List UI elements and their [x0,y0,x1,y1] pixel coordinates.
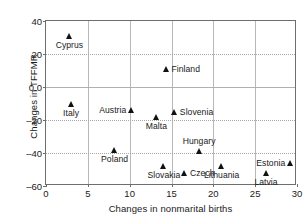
point-label-estonia: Estonia [256,157,285,167]
y-tick-label: ‒40 [26,148,42,159]
triangle-marker-icon [218,163,224,169]
y-tick-mark [43,87,46,88]
gridline-x-10 [130,21,131,184]
x-tick-mark [46,184,47,187]
x-tick-label: 5 [85,188,90,199]
point-label-latvia: Latvia [254,177,277,187]
y-tick-label: 0.0 [29,82,42,93]
x-tick-mark [297,184,298,187]
triangle-marker-icon [287,160,293,166]
y-tick-mark [43,54,46,55]
scatter-chart: Changes in TFFMR 40200.0‒20‒40‒60 051015… [0,0,305,222]
point-label-slovakia: Slovakia [148,170,181,180]
y-tick-mark [43,120,46,121]
y-tick-label: ‒20 [26,115,42,126]
y-tick-label: 40 [31,16,42,27]
point-label-austria: Austria [99,105,126,115]
triangle-marker-icon [160,163,166,169]
x-tick-mark [88,184,89,187]
plot-area: 40200.0‒20‒40‒60 051015202530 CyprusItal… [45,20,296,185]
gridline-y-‒40 [46,153,295,154]
x-tick-label: 0 [43,188,48,199]
gridline-x-20 [213,21,214,184]
point-label-slovenia: Slovenia [180,106,213,116]
y-tick-mark [43,21,46,22]
x-tick-label: 10 [124,188,135,199]
x-axis-title: Changes in nonmarital births [45,203,296,214]
x-tick-label: 20 [208,188,219,199]
gridline-y-20 [46,54,295,55]
gridline-y-0.0 [46,87,295,88]
x-tick-label: 15 [166,188,177,199]
triangle-marker-icon [128,107,134,113]
gridline-y-‒20 [46,120,295,121]
x-tick-label: 30 [292,188,303,199]
point-label-hungary: Hungary [183,136,216,146]
point-label-italy: Italy [63,108,79,118]
triangle-marker-icon [163,66,169,72]
point-label-finland: Finland [171,63,200,73]
x-tick-mark [130,184,131,187]
point-label-lithuania: Lithuania [204,170,239,180]
triangle-marker-icon [263,170,269,176]
triangle-marker-icon [171,109,177,115]
point-label-cyprus: Cyprus [56,40,84,50]
x-tick-label: 25 [250,188,261,199]
triangle-marker-icon [111,147,117,153]
triangle-marker-icon [68,101,74,107]
x-tick-mark [213,184,214,187]
y-tick-mark [43,153,46,154]
gridline-x-15 [172,21,173,184]
x-tick-mark [172,184,173,187]
triangle-marker-icon [66,33,72,39]
point-label-malta: Malta [146,121,167,131]
triangle-marker-icon [196,148,202,154]
y-tick-label: 20 [31,49,42,60]
point-label-poland: Poland [101,154,128,164]
triangle-marker-icon [153,114,159,120]
y-tick-label: ‒60 [26,181,42,192]
triangle-marker-icon [181,170,187,176]
gridline-x-5 [88,21,89,184]
